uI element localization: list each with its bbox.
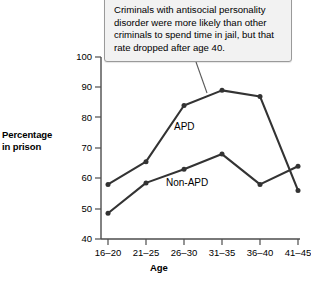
- series-label-nonapd: Non-APD: [166, 177, 208, 188]
- nonapd-point-3: [220, 152, 225, 157]
- y-tick-label-50: 50: [66, 203, 92, 214]
- axes: [95, 57, 300, 245]
- y-axis-title: Percentage in prison: [2, 129, 72, 152]
- x-tick-label-5: 41–45: [278, 247, 311, 258]
- callout-leader-line: [196, 62, 207, 93]
- apd-point-0: [106, 182, 111, 187]
- y-axis-title-line1: Percentage: [2, 129, 72, 141]
- y-tick-label-100: 100: [66, 51, 92, 62]
- x-tick-label-1: 21–25: [126, 247, 166, 258]
- nonapd-point-5: [296, 164, 301, 169]
- series-label-apd: APD: [174, 121, 195, 132]
- y-tick-label-40: 40: [66, 233, 92, 244]
- apd-point-2: [182, 103, 187, 108]
- nonapd-point-4: [258, 182, 263, 187]
- apd-point-1: [144, 159, 149, 164]
- x-tick-label-4: 36–40: [240, 247, 280, 258]
- x-tick-label-3: 31–35: [202, 247, 242, 258]
- y-tick-label-80: 80: [66, 112, 92, 123]
- y-tick-label-70: 70: [66, 142, 92, 153]
- x-axis-title: Age: [150, 262, 230, 274]
- callout-annotation: Criminals with antisocial personality di…: [104, 0, 292, 62]
- apd-line: [108, 90, 298, 190]
- y-axis-title-line2: in prison: [2, 141, 72, 153]
- apd-point-5: [296, 188, 301, 193]
- y-tick-label-90: 90: [66, 81, 92, 92]
- apd-point-4: [258, 94, 263, 99]
- y-tick-label-60: 60: [66, 172, 92, 183]
- x-tick-label-0: 16–20: [88, 247, 128, 258]
- x-tick-label-2: 26–30: [164, 247, 204, 258]
- nonapd-point-2: [182, 167, 187, 172]
- nonapd-point-0: [106, 211, 111, 216]
- apd-point-3: [220, 88, 225, 93]
- nonapd-point-1: [144, 180, 149, 185]
- chart-figure: Criminals with antisocial personality di…: [0, 0, 311, 282]
